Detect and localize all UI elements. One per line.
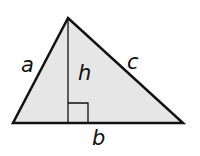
triangle-diagram: a h c b — [0, 0, 200, 156]
label-height-h: h — [78, 63, 91, 84]
triangle-shape — [13, 18, 183, 123]
label-side-c: c — [127, 52, 139, 73]
label-base-b: b — [92, 128, 105, 149]
label-side-a: a — [21, 55, 34, 76]
